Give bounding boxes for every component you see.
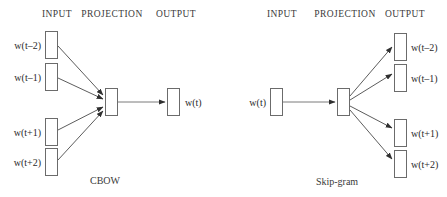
skipgram-header-output: OUTPUT	[385, 9, 425, 19]
skipgram-header-input: INPUT	[267, 9, 297, 19]
cbow-output-box-0	[168, 89, 180, 116]
cbow-output-label-0: w(t)	[185, 97, 202, 109]
skipgram-output-box-1	[395, 65, 407, 92]
skipgram-output-box-2	[395, 120, 407, 147]
cbow-header-output: OUTPUT	[156, 9, 196, 19]
cbow-header-input: INPUT	[42, 9, 72, 19]
word2vec-architecture-figure: INPUT PROJECTION OUTPUT w(t–2) w(t–1) w(…	[0, 0, 447, 197]
cbow-edge-input0-to-projection	[58, 46, 103, 95]
cbow-input-label-3: w(t+2)	[14, 157, 41, 169]
cbow-input-box-1	[46, 64, 58, 91]
cbow-header-projection: PROJECTION	[81, 9, 143, 19]
cbow-input-label-1: w(t–1)	[14, 72, 41, 84]
cbow-input-box-0	[46, 32, 58, 59]
skipgram-output-label-2: w(t+1)	[411, 128, 438, 140]
cbow-input-box-3	[46, 149, 58, 176]
skipgram-output-label-1: w(t–1)	[411, 73, 438, 85]
skipgram-edge-projection-to-output1	[350, 74, 392, 100]
cbow-input-label-2: w(t+1)	[14, 127, 41, 139]
skipgram-edge-projection-to-output0	[350, 47, 392, 96]
skipgram-header-projection: PROJECTION	[314, 9, 376, 19]
skipgram-caption: Skip-gram	[316, 176, 358, 187]
skipgram-output-label-3: w(t+2)	[411, 159, 438, 171]
skipgram-output-box-3	[395, 151, 407, 178]
cbow-projection-box	[106, 89, 118, 116]
cbow-input-label-0: w(t–2)	[14, 40, 41, 52]
skipgram-input-box-0	[271, 89, 283, 116]
skipgram-output-box-0	[395, 34, 407, 61]
cbow-edge-input1-to-projection	[58, 78, 103, 99]
skipgram-output-label-0: w(t–2)	[411, 42, 438, 54]
diagram-canvas: INPUT PROJECTION OUTPUT w(t–2) w(t–1) w(…	[0, 0, 447, 197]
skipgram-input-label-0: w(t)	[249, 97, 266, 109]
skipgram-projection-box	[338, 89, 350, 116]
cbow-input-box-2	[46, 119, 58, 146]
cbow-caption: CBOW	[90, 175, 121, 186]
